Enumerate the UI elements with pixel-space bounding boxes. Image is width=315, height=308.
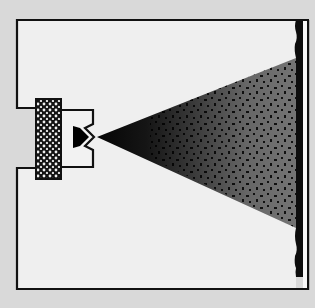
nozzle: [61, 110, 94, 167]
screen: [295, 19, 310, 290]
diagram-canvas: [0, 0, 315, 308]
source-block: [36, 99, 61, 179]
